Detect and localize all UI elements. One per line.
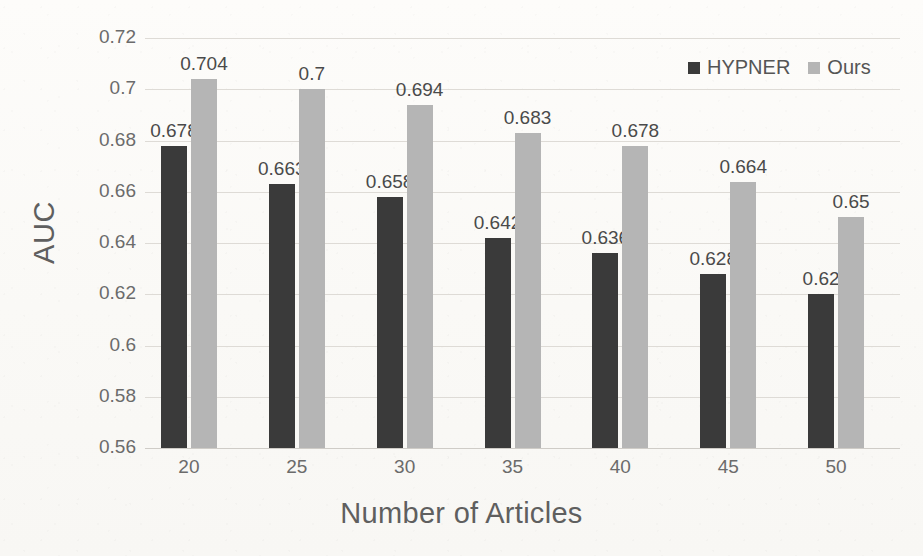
x-axis-tick-label: 20 [178,456,199,478]
gridline [145,89,900,90]
bar-ours [622,146,648,448]
bar-ours [730,182,756,449]
bar-hypner [485,238,511,448]
bar-ours [838,217,864,448]
x-axis-title: Number of Articles [0,497,923,530]
y-axis-tick-label: 0.66 [52,180,136,202]
y-axis-tick-label: 0.64 [52,231,136,253]
bar-ours [191,79,217,448]
bar-ours [515,133,541,448]
plot-area: 0.6780.7040.6630.70.6580.6940.6420.6830.… [145,38,900,448]
square-marker-icon [688,62,700,74]
bar-hypner [269,184,295,448]
legend-label: Ours [827,56,870,79]
bar-ours [407,105,433,448]
chart-figure: AUC 0.720.70.680.660.640.620.60.580.56 0… [0,0,923,556]
bar-value-label: 0.704 [180,53,228,75]
y-axis-tick-label: 0.56 [52,436,136,458]
y-axis-title: AUC [28,173,61,293]
legend-label: HYPNER [707,56,790,79]
y-axis-tick-label: 0.72 [52,26,136,48]
bar-value-label: 0.7 [299,63,325,85]
gridline [145,38,900,39]
bar-value-label: 0.62 [803,268,840,290]
x-axis-tick-label: 30 [394,456,415,478]
x-axis-tick-label: 40 [610,456,631,478]
bar-hypner [377,197,403,448]
x-axis-tick-label: 25 [286,456,307,478]
bar-value-label: 0.678 [612,120,660,142]
y-axis-tick-label: 0.68 [52,129,136,151]
bar-value-label: 0.65 [833,191,870,213]
x-axis-tick-label: 35 [502,456,523,478]
gridline [145,448,900,449]
y-axis-tick-label: 0.58 [52,385,136,407]
y-axis-tick-label: 0.6 [52,334,136,356]
bar-value-label: 0.683 [504,107,552,129]
legend-item: Ours [808,56,870,79]
legend-item: HYPNER [688,56,790,79]
bar-ours [299,89,325,448]
bar-hypner [808,294,834,448]
x-axis-tick-label: 50 [825,456,846,478]
bar-hypner [161,146,187,448]
bar-hypner [592,253,618,448]
bar-value-label: 0.664 [719,156,767,178]
chart-legend: HYPNEROurs [688,56,871,79]
bar-value-label: 0.694 [396,79,444,101]
x-axis-tick-label: 45 [718,456,739,478]
y-axis-tick-label: 0.7 [52,77,136,99]
square-marker-icon [808,62,820,74]
bar-hypner [700,274,726,448]
y-axis-tick-label: 0.62 [52,282,136,304]
